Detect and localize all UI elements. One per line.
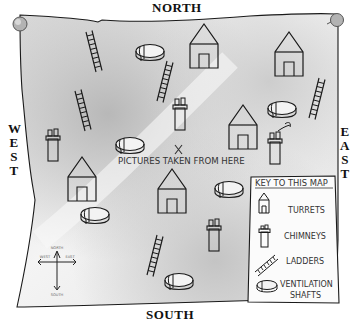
svg-text:SOUTH: SOUTH [51,293,64,297]
map-key: KEY TO THIS MAP TURRETS CHIMNEYS [248,176,339,303]
north-label: NORTH [152,0,202,16]
svg-text:VENTILATION: VENTILATION [280,280,333,289]
east-label: E A S T [339,125,351,181]
svg-text:CHIMNEYS: CHIMNEYS [284,232,326,241]
key-title: KEY TO THIS MAP [255,178,328,188]
svg-text:LADDERS: LADDERS [286,257,324,266]
pin-icon [13,17,27,31]
west-label: W E S T [8,122,20,178]
svg-text:WEST: WEST [40,255,51,259]
svg-text:SHAFTS: SHAFTS [290,291,321,300]
rooftop-map: PICTURES TAKEN FROM HERE NORTH SOUTH WES… [0,0,359,325]
svg-text:NORTH: NORTH [51,246,64,250]
photo-location-label: PICTURES TAKEN FROM HERE [118,156,245,166]
svg-text:TURRETS: TURRETS [287,206,325,215]
south-label: SOUTH [146,307,194,323]
map-drawing: PICTURES TAKEN FROM HERE NORTH SOUTH WES… [0,0,359,325]
svg-text:EAST: EAST [65,255,75,259]
